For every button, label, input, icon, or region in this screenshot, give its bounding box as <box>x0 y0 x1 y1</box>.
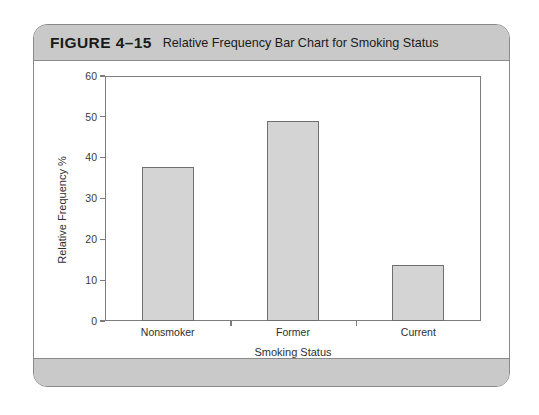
y-tick-label: 50 <box>85 112 97 123</box>
y-tick-label: 20 <box>85 234 97 245</box>
bars-layer <box>105 76 481 321</box>
y-tick-label: 10 <box>85 275 97 286</box>
figure-caption: Relative Frequency Bar Chart for Smoking… <box>163 36 439 50</box>
figure-card: FIGURE 4–15 Relative Frequency Bar Chart… <box>33 24 510 387</box>
y-tick-label: 40 <box>85 152 97 163</box>
x-axis-labels: NonsmokerFormerCurrent <box>105 326 481 342</box>
y-tick-label: 60 <box>85 71 97 82</box>
bar <box>267 121 319 321</box>
y-tick-label: 30 <box>85 193 97 204</box>
x-tick-label: Former <box>276 326 310 338</box>
bar <box>142 167 194 321</box>
y-axis-ticks: 0102030405060 <box>34 76 105 321</box>
figure-footer <box>34 358 509 386</box>
figure-header: FIGURE 4–15 Relative Frequency Bar Chart… <box>34 25 509 61</box>
y-tick-label: 0 <box>91 316 97 327</box>
bar <box>392 265 444 321</box>
x-tick-label: Nonsmoker <box>141 326 195 338</box>
x-axis-title: Smoking Status <box>105 346 481 358</box>
x-tick-label: Current <box>401 326 436 338</box>
figure-number-label: FIGURE 4–15 <box>50 34 152 52</box>
chart-plot-region: Relative Frequency % 0102030405060 Nonsm… <box>34 61 509 358</box>
